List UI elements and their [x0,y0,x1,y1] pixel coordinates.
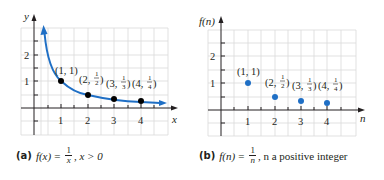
svg-text:1: 1 [281,73,285,81]
chart-a-point-label-1: (1, 1) [55,65,78,77]
caption-a-eq: = [54,150,60,162]
svg-text:): ) [339,80,343,92]
chart-a-xtick-4: 4 [138,115,144,126]
chart-a-point-label-3: (3, 1 3 ) [106,74,131,91]
chart-b-xtick-1: 1 [245,116,250,127]
caption-a-fraction: 1 x [65,146,72,165]
chart-a-point-4 [138,98,144,104]
chart-b-point-label-1: (1, 1) [237,66,260,78]
caption-b-eq: = [238,150,244,162]
svg-text:4: 4 [148,83,152,91]
svg-text:(3,: (3, [292,80,303,92]
svg-text:(2,: (2, [79,74,90,86]
caption-a: (a) f(x) = 1 x , x > 0 [16,146,103,165]
chart-a-xtick-1: 1 [58,115,63,126]
svg-text:): ) [127,78,131,90]
chart-a-ytick-2: 2 [24,50,29,61]
chart-a: 1 2 3 4 1 2 x y (1, 1) (2, 1 2 ) (3, 1 3… [21,10,178,135]
chart-b-ytick-2: 2 [210,51,215,62]
chart-a-curve-up-arrow-icon [41,25,48,35]
chart-a-x-label: x [171,113,177,125]
chart-a-point-2 [85,92,91,98]
svg-text:1: 1 [122,74,126,82]
caption-a-lhs: f(x) [36,150,51,162]
chart-b-x-label: n [360,112,366,124]
svg-text:): ) [286,77,290,89]
caption-a-tag: (a) [16,150,32,161]
svg-text:2: 2 [95,79,99,87]
svg-text:1: 1 [334,76,338,84]
svg-text:(4,: (4, [132,78,143,90]
chart-b-point-1 [245,80,251,86]
svg-text:1: 1 [148,74,152,82]
chart-b-point-label-2: (2, 1 2 ) [265,73,290,90]
chart-a-y-arrow-icon [32,14,37,21]
svg-text:): ) [153,78,157,90]
svg-text:): ) [100,74,104,86]
chart-a-y-label: y [23,10,29,22]
chart-b-xtick-2: 2 [272,116,277,127]
chart-b-point-2 [272,94,278,100]
caption-b-lhs: f(n) [219,150,235,162]
chart-b: 1 2 3 4 1 2 n f(n) (1, 1) (2, 1 2 ) (3, … [199,15,366,136]
chart-a-curve-right-arrow-icon [159,100,167,106]
chart-a-point-label-2: (2, 1 2 ) [79,70,104,87]
svg-text:4: 4 [334,85,338,93]
chart-a-point-label-4: (4, 1 4 ) [132,74,157,91]
chart-a-ytick-1: 1 [24,76,29,87]
chart-b-point-4 [324,100,330,106]
chart-b-point-label-3: (3, 1 3 ) [292,76,317,93]
svg-text:2: 2 [281,82,285,90]
chart-b-point-label-4: (4, 1 4 ) [318,76,343,93]
caption-b-fraction: 1 n [249,146,256,165]
chart-b-xtick-3: 3 [298,116,303,127]
svg-text:1: 1 [308,76,312,84]
svg-text:): ) [313,80,317,92]
svg-text:(2,: (2, [265,77,276,89]
svg-text:3: 3 [122,83,126,91]
chart-a-xtick-2: 2 [85,115,90,126]
chart-b-xtick-4: 4 [324,116,330,127]
chart-b-y-label: f(n) [199,15,215,28]
chart-b-ytick-1: 1 [210,78,215,89]
svg-text:1: 1 [95,70,99,78]
svg-text:(3,: (3, [106,78,117,90]
caption-a-rest: , x > 0 [74,150,103,162]
caption-b-rest: , n a positive integer [258,150,348,162]
chart-a-point-1 [58,78,64,84]
svg-text:(4,: (4, [318,80,329,92]
chart-b-y-arrow-icon [219,16,224,23]
chart-a-xtick-3: 3 [111,115,116,126]
caption-b: (b) f(n) = 1 n , n a positive integer [199,146,347,165]
chart-a-point-3 [111,96,117,102]
svg-text:3: 3 [308,85,312,93]
chart-a-x-arrow-icon [171,106,178,111]
chart-b-point-3 [298,98,304,104]
caption-b-tag: (b) [199,150,215,161]
